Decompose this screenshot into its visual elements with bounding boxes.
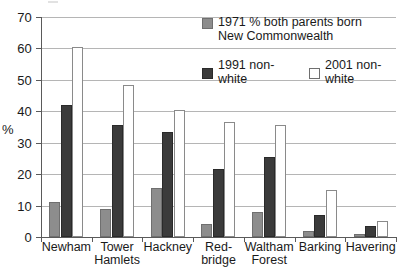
- bar-s1991: [213, 169, 224, 237]
- chart-legend: 1971 % both parents born New Commonwealt…: [202, 16, 402, 89]
- legend-item-1971: 1971 % both parents born New Commonwealt…: [202, 16, 402, 43]
- bar-s1991: [162, 132, 173, 237]
- legend-item-1991: 1991 non-white: [202, 58, 295, 86]
- y-tick-label-60: 60: [2, 41, 32, 56]
- bar-s1971: [151, 188, 162, 237]
- legend-swatch-2001-icon: [309, 68, 320, 79]
- legend-swatch-1971-icon: [202, 18, 213, 29]
- y-tick-label-0: 0: [2, 230, 32, 245]
- bar-s2001: [326, 190, 337, 237]
- y-tick-label-70: 70: [2, 10, 32, 25]
- x-axis-line: [41, 237, 396, 238]
- bar-s1971: [354, 234, 365, 237]
- bar-s1971: [201, 224, 212, 237]
- bar-s2001: [72, 47, 83, 237]
- bar-s2001: [275, 125, 286, 237]
- bar-s2001: [377, 221, 388, 237]
- bar-s2001: [123, 85, 134, 237]
- legend-row-nonwhite: 1991 non-white 2001 non-white: [202, 58, 402, 86]
- bar-s1991: [264, 157, 275, 237]
- x-tick-mark: [396, 237, 397, 242]
- bar-s1991: [61, 105, 72, 237]
- legend-label-2001: 2001 non-white: [325, 58, 402, 86]
- bar-chart: 010203040506070 % NewhamTowerHamletsHack…: [0, 0, 405, 268]
- bar-s1991: [112, 125, 123, 237]
- y-axis-title: %: [2, 122, 14, 137]
- y-tick-label-50: 50: [2, 72, 32, 87]
- legend-label-1971: 1971 % both parents born New Commonwealt…: [218, 16, 362, 43]
- x-tick-mark: [41, 237, 42, 242]
- legend-item-2001: 2001 non-white: [309, 58, 402, 86]
- legend-swatch-1991-icon: [202, 68, 213, 79]
- bar-s1971: [303, 231, 314, 237]
- bar-s1991: [365, 226, 376, 237]
- bar-s1991: [314, 215, 325, 237]
- bar-s1971: [100, 209, 111, 237]
- bar-group: [142, 17, 193, 237]
- bar-group: [92, 17, 143, 237]
- y-tick-label-30: 30: [2, 135, 32, 150]
- scan-artifact: [48, 1, 58, 3]
- y-tick-label-40: 40: [2, 104, 32, 119]
- y-tick-label-20: 20: [2, 167, 32, 182]
- bar-group: [41, 17, 92, 237]
- bar-s2001: [224, 122, 235, 237]
- bar-s1971: [49, 202, 60, 237]
- legend-label-1991: 1991 non-white: [218, 58, 295, 86]
- bar-s2001: [174, 110, 185, 237]
- x-axis-label: Havering: [336, 241, 405, 254]
- y-tick-label-10: 10: [2, 198, 32, 213]
- bar-s1971: [252, 212, 263, 237]
